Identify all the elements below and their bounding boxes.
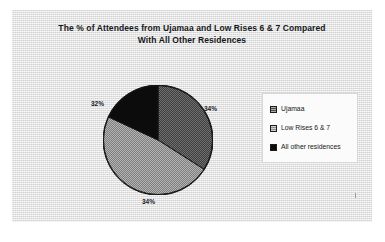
legend-label-all-other: All other residences (281, 143, 341, 151)
legend-swatch-icon-all-other (270, 144, 277, 151)
chart-title-line-1: The % of Attendees from Ujamaa and Low R… (12, 22, 372, 34)
legend-item-low-rises: Low Rises 6 & 7 (270, 120, 351, 136)
pie-label-low-rises: 34% (142, 198, 155, 205)
pie-graphic (103, 85, 213, 195)
legend-item-ujamaa: Ujamaa (270, 101, 351, 117)
pie-label-all-other: 32% (91, 100, 104, 107)
legend-swatch-icon-low-rises (270, 125, 277, 132)
legend-swatch-icon-ujamaa (270, 106, 277, 113)
scan-artifact-tick (355, 193, 356, 198)
legend-item-all-other: All other residences (270, 139, 351, 155)
legend-label-low-rises: Low Rises 6 & 7 (281, 124, 330, 132)
chart-title-line-2: With All Other Residences (12, 34, 372, 46)
chart-plot-area: The % of Attendees from Ujamaa and Low R… (12, 10, 372, 222)
chart-title: The % of Attendees from Ujamaa and Low R… (12, 22, 372, 46)
pie-label-ujamaa: 34% (204, 105, 217, 112)
pie-chart-figure: The % of Attendees from Ujamaa and Low R… (0, 0, 385, 242)
legend-label-ujamaa: Ujamaa (281, 105, 304, 113)
chart-legend: Ujamaa Low Rises 6 & 7 All other residen… (262, 93, 358, 163)
pie-svg (103, 85, 213, 195)
